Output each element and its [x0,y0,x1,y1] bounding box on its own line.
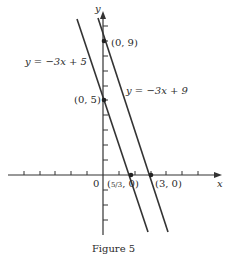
line-y-neg3x-plus-5 [77,19,148,232]
point-5-3-0 [129,173,134,178]
line-y-neg3x-plus-9 [98,18,168,232]
point-0-5 [102,98,107,103]
figure-caption: Figure 5 [0,243,227,254]
label-point-0-9: (0, 9) [111,38,138,48]
y-ticks [103,26,108,220]
x-axis-label: x [217,179,223,189]
label-line-y-neg3x-plus-5: y = −3x + 5 [25,57,87,67]
origin-label: 0 [93,179,99,189]
label-point-5-3-0: (5/3, 0) [107,179,139,189]
y-axis-label: y [95,4,101,14]
label-line-y-neg3x-plus-9: y = −3x + 9 [126,86,188,96]
point-3-0 [149,173,154,178]
label-point-3-0: (3, 0) [155,179,182,189]
label-point-0-5: (0, 5) [74,95,101,105]
point-0-9 [102,39,107,44]
